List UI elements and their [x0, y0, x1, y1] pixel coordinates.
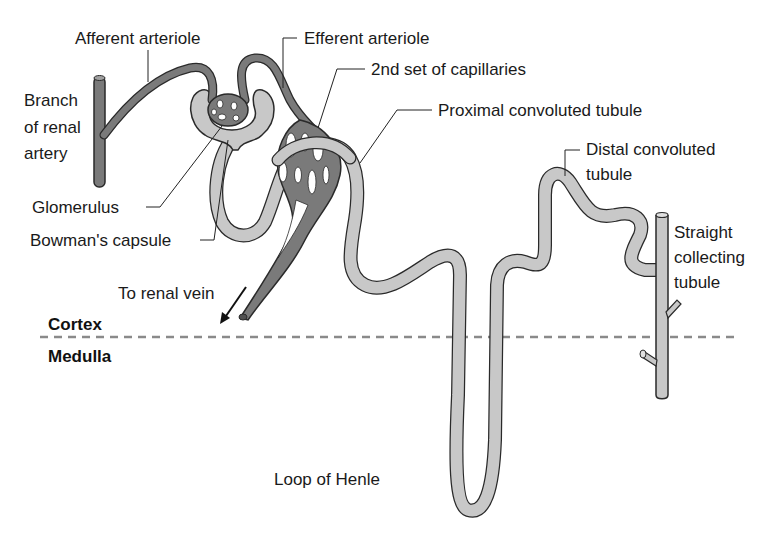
label-branch-2: of renal — [24, 118, 81, 137]
nephron-diagram: Afferent arteriole Efferent arteriole 2n… — [0, 0, 774, 550]
renal-tubule — [216, 138, 660, 511]
label-proximal-tubule: Proximal convoluted tubule — [438, 101, 642, 120]
label-afferent-arteriole: Afferent arteriole — [75, 29, 200, 48]
region-medulla: Medulla — [48, 347, 112, 366]
label-straight-2: collecting — [674, 248, 745, 267]
label-distal-tubule-2: tubule — [586, 165, 632, 184]
label-second-capillaries: 2nd set of capillaries — [371, 60, 526, 79]
region-cortex: Cortex — [48, 315, 102, 334]
label-to-renal-vein: To renal vein — [118, 284, 214, 303]
label-branch-3: artery — [24, 144, 68, 163]
label-efferent-arteriole: Efferent arteriole — [304, 29, 429, 48]
label-loop-of-henle: Loop of Henle — [274, 470, 380, 489]
label-glomerulus: Glomerulus — [32, 198, 119, 217]
label-straight-1: Straight — [674, 223, 733, 242]
label-straight-3: tubule — [674, 273, 720, 292]
label-branch-1: Branch — [24, 91, 78, 110]
label-distal-tubule-1: Distal convoluted — [586, 140, 715, 159]
label-bowmans-capsule: Bowman's capsule — [30, 231, 171, 250]
